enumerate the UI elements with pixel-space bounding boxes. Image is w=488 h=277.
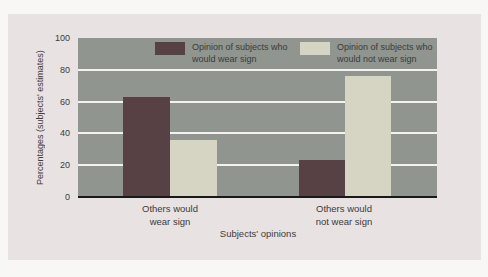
y-tick-label: 80 (40, 65, 70, 74)
figure-card: Percentages (subjects' estimates) 020406… (8, 14, 481, 260)
legend-label-would-wear: Opinion of subjects who would wear sign (192, 41, 300, 65)
y-tick-label: 0 (40, 193, 70, 202)
y-axis-ticks: 020406080100 (40, 38, 70, 197)
x-axis-line (78, 196, 437, 198)
category-label-others-would-not-wear: Others would not wear sign (309, 203, 379, 228)
plot-area: Opinion of subjects who would wear sign … (78, 38, 437, 197)
category-label-others-would-wear: Others would wear sign (135, 203, 205, 228)
bar-would-not-wear-estimate-others-wear (170, 140, 217, 197)
y-tick-label: 60 (40, 97, 70, 106)
y-tick-label: 100 (40, 34, 70, 43)
legend-label-would-not-wear: Opinion of subjects who would not wear s… (337, 41, 445, 65)
bar-would-wear-estimate-others-not-wear (299, 160, 345, 197)
bar-would-wear-estimate-others-wear (123, 97, 170, 197)
legend-item-would-not-wear: Opinion of subjects who would not wear s… (300, 41, 445, 65)
y-tick-label: 40 (40, 129, 70, 138)
legend-item-would-wear: Opinion of subjects who would wear sign (155, 41, 300, 65)
legend-swatch-would-wear-icon (155, 42, 185, 55)
x-axis-title: Subjects' opinions (188, 228, 328, 239)
y-tick-label: 20 (40, 161, 70, 170)
bar-would-not-wear-estimate-others-not-wear (345, 76, 391, 197)
legend-swatch-would-not-wear-icon (300, 42, 330, 55)
